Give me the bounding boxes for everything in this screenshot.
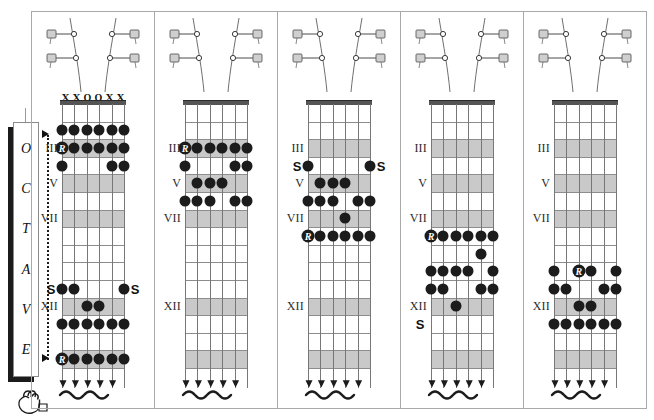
- note-dot[interactable]: [463, 231, 474, 242]
- note-dot[interactable]: [450, 231, 461, 242]
- note-dot[interactable]: [119, 319, 130, 330]
- note-dot[interactable]: [229, 143, 240, 154]
- note-dot[interactable]: [365, 231, 376, 242]
- note-dot[interactable]: [438, 231, 449, 242]
- note-dot[interactable]: [94, 125, 105, 136]
- note-dot[interactable]: [180, 195, 191, 206]
- note-dot[interactable]: [204, 178, 215, 189]
- note-dot[interactable]: [119, 160, 130, 171]
- note-dot[interactable]: [106, 125, 117, 136]
- note-dot[interactable]: [192, 178, 203, 189]
- note-dot[interactable]: [426, 283, 437, 294]
- note-dot[interactable]: [81, 143, 92, 154]
- note-dot[interactable]: [488, 266, 499, 277]
- note-dot[interactable]: [573, 319, 584, 330]
- note-dot[interactable]: [365, 195, 376, 206]
- note-dot[interactable]: [94, 354, 105, 365]
- note-dot[interactable]: [81, 301, 92, 312]
- root-note-dot[interactable]: R: [425, 230, 438, 243]
- note-dot[interactable]: [242, 195, 253, 206]
- note-dot[interactable]: [57, 125, 68, 136]
- note-dot[interactable]: [573, 301, 584, 312]
- note-dot[interactable]: [303, 160, 314, 171]
- note-dot[interactable]: [426, 266, 437, 277]
- note-dot[interactable]: [463, 266, 474, 277]
- note-dot[interactable]: [119, 283, 130, 294]
- note-dot[interactable]: [438, 283, 449, 294]
- fretboard-panel-4[interactable]: RIIIVVIIXIIS: [401, 12, 524, 408]
- note-dot[interactable]: [315, 178, 326, 189]
- note-dot[interactable]: [327, 231, 338, 242]
- fretboard-panel-5[interactable]: RIIIVVIIXII: [524, 12, 646, 408]
- note-dot[interactable]: [57, 160, 68, 171]
- note-dot[interactable]: [586, 319, 597, 330]
- note-dot[interactable]: [340, 231, 351, 242]
- note-dot[interactable]: [106, 319, 117, 330]
- note-dot[interactable]: [450, 266, 461, 277]
- note-dot[interactable]: [561, 283, 572, 294]
- note-dot[interactable]: [611, 266, 622, 277]
- note-dot[interactable]: [549, 319, 560, 330]
- note-dot[interactable]: [69, 319, 80, 330]
- note-dot[interactable]: [352, 231, 363, 242]
- note-dot[interactable]: [81, 319, 92, 330]
- note-dot[interactable]: [340, 178, 351, 189]
- note-dot[interactable]: [119, 354, 130, 365]
- note-dot[interactable]: [303, 195, 314, 206]
- note-dot[interactable]: [327, 178, 338, 189]
- note-dot[interactable]: [549, 283, 560, 294]
- note-dot[interactable]: [204, 143, 215, 154]
- note-dot[interactable]: [586, 266, 597, 277]
- note-dot[interactable]: [180, 160, 191, 171]
- note-dot[interactable]: [242, 160, 253, 171]
- fretboard-grid[interactable]: RR: [62, 104, 124, 368]
- fretboard-grid[interactable]: R: [308, 104, 370, 368]
- note-dot[interactable]: [475, 283, 486, 294]
- note-dot[interactable]: [438, 266, 449, 277]
- fretboard-panel-2[interactable]: RIIIVVIIXII: [155, 12, 278, 408]
- note-dot[interactable]: [611, 283, 622, 294]
- note-dot[interactable]: [106, 160, 117, 171]
- note-dot[interactable]: [69, 125, 80, 136]
- root-note-dot[interactable]: R: [56, 353, 69, 366]
- note-dot[interactable]: [611, 319, 622, 330]
- note-dot[interactable]: [549, 266, 560, 277]
- root-note-dot[interactable]: R: [302, 230, 315, 243]
- fretboard-panel-3[interactable]: RIIIVVIIXIISS: [278, 12, 401, 408]
- note-dot[interactable]: [488, 231, 499, 242]
- fretboard-grid[interactable]: R: [554, 104, 616, 368]
- note-dot[interactable]: [242, 143, 253, 154]
- note-dot[interactable]: [57, 319, 68, 330]
- fretboard-panel-1[interactable]: XXOOXXRRIIIVVIIXIISS: [32, 12, 155, 408]
- note-dot[interactable]: [119, 143, 130, 154]
- note-dot[interactable]: [119, 125, 130, 136]
- note-dot[interactable]: [315, 195, 326, 206]
- note-dot[interactable]: [69, 283, 80, 294]
- note-dot[interactable]: [598, 283, 609, 294]
- root-note-dot[interactable]: R: [572, 265, 585, 278]
- note-dot[interactable]: [192, 143, 203, 154]
- fretboard-grid[interactable]: R: [431, 104, 493, 368]
- fretboard-grid[interactable]: R: [185, 104, 247, 368]
- note-dot[interactable]: [475, 248, 486, 259]
- note-dot[interactable]: [450, 301, 461, 312]
- note-dot[interactable]: [81, 354, 92, 365]
- note-dot[interactable]: [352, 195, 363, 206]
- note-dot[interactable]: [488, 283, 499, 294]
- note-dot[interactable]: [217, 143, 228, 154]
- note-dot[interactable]: [475, 231, 486, 242]
- note-dot[interactable]: [81, 125, 92, 136]
- note-dot[interactable]: [229, 160, 240, 171]
- note-dot[interactable]: [315, 231, 326, 242]
- note-dot[interactable]: [204, 195, 215, 206]
- note-dot[interactable]: [229, 195, 240, 206]
- note-dot[interactable]: [327, 195, 338, 206]
- note-dot[interactable]: [94, 143, 105, 154]
- note-dot[interactable]: [340, 213, 351, 224]
- note-dot[interactable]: [217, 178, 228, 189]
- note-dot[interactable]: [69, 143, 80, 154]
- note-dot[interactable]: [586, 301, 597, 312]
- note-dot[interactable]: [69, 354, 80, 365]
- note-dot[interactable]: [106, 143, 117, 154]
- note-dot[interactable]: [598, 319, 609, 330]
